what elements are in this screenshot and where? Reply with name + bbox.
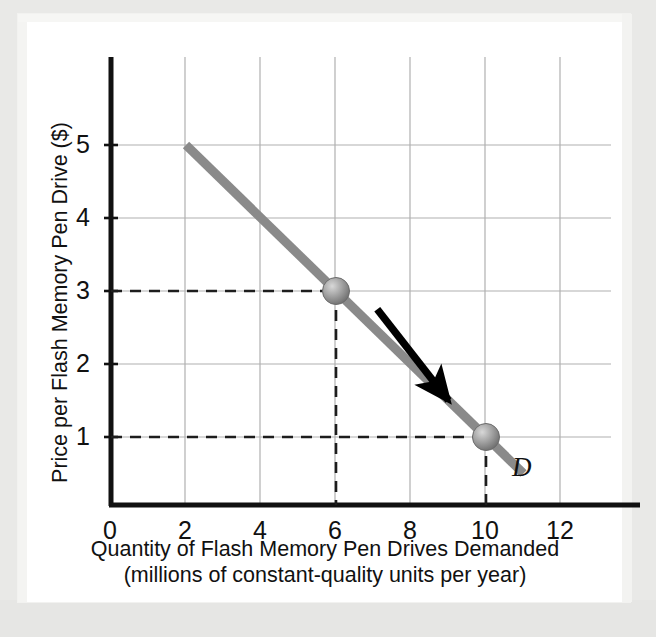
movement-arrow: [377, 309, 448, 400]
x-axis-title-line-2: (millions of constant-quality units per …: [40, 562, 610, 588]
data-point-a: [323, 278, 350, 305]
guide-lines: [111, 291, 486, 505]
data-point-b: [473, 424, 500, 451]
x-axis-title: Quantity of Flash Memory Pen Drives Dema…: [40, 536, 610, 588]
x-axis-title-line-1: Quantity of Flash Memory Pen Drives Dema…: [40, 536, 610, 562]
gridlines-vertical: [185, 57, 560, 505]
demand-curve-label: D: [512, 452, 532, 483]
figure-page: 5 4 3 2 1 0 2 4 6 8 10 12 Price per Flas…: [0, 0, 656, 637]
demand-curve-line: [186, 145, 524, 474]
y-axis-title: Price per Flash Memory Pen Drive ($): [48, 103, 73, 503]
